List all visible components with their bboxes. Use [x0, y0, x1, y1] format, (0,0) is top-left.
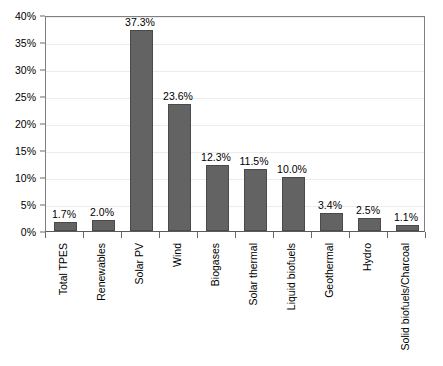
gridline [46, 179, 424, 180]
gridline [46, 17, 424, 18]
x-axis-category-label: Solar PV [134, 243, 145, 284]
y-axis-tick-mark [40, 124, 45, 125]
y-axis-tick-label: 35% [15, 38, 36, 49]
bar-value-label: 1.7% [52, 209, 76, 220]
bar[interactable] [358, 218, 381, 232]
bar-value-label: 11.5% [240, 156, 269, 167]
bar[interactable] [92, 220, 115, 231]
y-axis: 0%5%10%15%20%25%30%35%40% [0, 0, 45, 366]
y-axis-tick-mark [40, 151, 45, 152]
y-axis-tick-label: 30% [15, 65, 36, 76]
x-axis-category-label: Geothermal [324, 243, 335, 298]
bar[interactable] [282, 177, 305, 231]
bar[interactable] [130, 30, 153, 231]
y-axis-tick-mark [40, 43, 45, 44]
bar[interactable] [320, 213, 343, 231]
y-axis-tick-mark [40, 205, 45, 206]
bar-value-label: 3.4% [318, 200, 342, 211]
y-axis-tick-label: 0% [21, 227, 36, 238]
bar-value-label: 1.1% [394, 212, 418, 223]
y-axis-tick-label: 20% [15, 119, 36, 130]
bar[interactable] [168, 104, 191, 231]
y-axis-tick-label: 5% [21, 200, 36, 211]
x-axis-tick-mark [45, 232, 46, 238]
x-axis-tick-mark [273, 232, 274, 238]
x-axis-category-label: Biogases [210, 243, 221, 286]
y-axis-tick-mark [40, 16, 45, 17]
bar-value-label: 37.3% [125, 17, 155, 28]
gridline [46, 152, 424, 153]
y-axis-tick-mark [40, 70, 45, 71]
bar-value-label: 2.0% [90, 207, 114, 218]
x-axis-category-label: Solar thermal [248, 243, 259, 305]
x-axis-tick-mark [159, 232, 160, 238]
x-axis-category-label: Total TPES [58, 243, 69, 295]
gridline [46, 125, 424, 126]
x-axis-tick-mark [121, 232, 122, 238]
y-axis-tick-mark [40, 178, 45, 179]
bar[interactable] [206, 165, 229, 231]
bar[interactable] [396, 225, 419, 231]
plot-area [45, 16, 425, 232]
x-axis-tick-mark [235, 232, 236, 238]
gridline [46, 44, 424, 45]
bar-chart: 0%5%10%15%20%25%30%35%40% 1.7%Total TPES… [0, 0, 443, 366]
x-axis-category-label: Renewables [96, 243, 107, 301]
bar-value-label: 2.5% [356, 205, 380, 216]
x-axis-category-label: Solid biofuels/Charcoal [400, 243, 411, 350]
x-axis-tick-mark [425, 232, 426, 238]
x-axis-tick-mark [197, 232, 198, 238]
bar[interactable] [54, 222, 77, 231]
y-axis-tick-mark [40, 97, 45, 98]
x-axis-tick-mark [83, 232, 84, 238]
x-axis-tick-mark [311, 232, 312, 238]
bar-value-label: 10.0% [277, 164, 307, 175]
x-axis-category-label: Liquid biofuels [286, 243, 297, 310]
gridline [46, 98, 424, 99]
y-axis-tick-label: 40% [15, 11, 36, 22]
y-axis-tick-label: 15% [15, 146, 36, 157]
bar-value-label: 12.3% [201, 152, 231, 163]
bar[interactable] [244, 169, 267, 231]
x-axis-category-label: Wind [172, 243, 183, 267]
x-axis-tick-mark [387, 232, 388, 238]
x-axis-tick-mark [349, 232, 350, 238]
bar-value-label: 23.6% [163, 91, 193, 102]
x-axis-category-label: Hydro [362, 243, 373, 271]
gridline [46, 71, 424, 72]
y-axis-tick-label: 25% [15, 92, 36, 103]
y-axis-tick-label: 10% [15, 173, 36, 184]
